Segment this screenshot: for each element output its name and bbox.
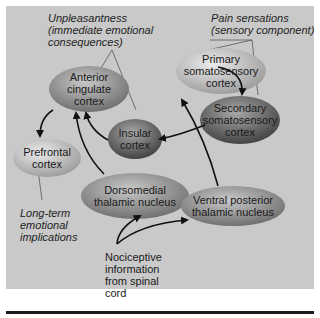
label-primary-somatosensory-cortex: Primarysomatosensorycortex [176, 48, 266, 94]
annotation-nociceptive: Nociceptive information from spinal cord [105, 251, 162, 299]
label-prefrontal-cortex: Prefrontalcortex [13, 139, 81, 177]
label-ventral-posterior-thalamic-nucleus: Ventral posteriorthalamic nucleus [181, 186, 285, 226]
label-insular-cortex: Insularcortex [108, 119, 162, 159]
label-secondary-somatosensory-cortex: Secondarysomatosensorycortex [200, 96, 280, 144]
label-anterior-cingulate-cortex: Anteriorcingulatecortex [49, 66, 129, 112]
annotation-unpleasantness: Unpleasantness (immediate emotional cons… [48, 12, 153, 48]
annotation-pain-sensations: Pain sensations (sensory component) [211, 12, 314, 36]
label-dorsomedial-thalamic-nucleus: Dorsomedialthalamic nucleus [81, 173, 189, 219]
annotation-long-term: Long-term emotional implications [20, 207, 77, 243]
